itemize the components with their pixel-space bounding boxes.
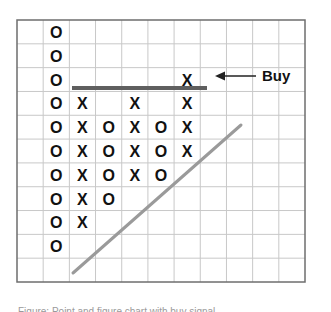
o-mark: O: [50, 191, 62, 208]
o-mark: O: [50, 167, 62, 184]
o-mark: O: [50, 143, 62, 160]
buy-label: Buy: [262, 67, 291, 84]
x-mark: X: [182, 143, 193, 160]
arrow-head-icon: [215, 72, 225, 81]
x-mark: X: [77, 214, 88, 231]
x-mark: X: [77, 119, 88, 136]
o-mark: O: [50, 238, 62, 255]
x-mark: X: [182, 95, 193, 112]
o-mark: O: [155, 143, 167, 160]
o-mark: O: [50, 72, 62, 89]
o-mark: O: [102, 143, 114, 160]
x-mark: X: [77, 167, 88, 184]
o-mark: O: [50, 95, 62, 112]
o-mark: O: [50, 119, 62, 136]
point-and-figure-chart: OOOOOOOOOOXXXXXXOOOOXXXXOOOXXXX Buy: [0, 0, 331, 312]
x-mark: X: [182, 119, 193, 136]
x-mark: X: [129, 143, 140, 160]
o-mark: O: [102, 191, 114, 208]
o-mark: O: [155, 119, 167, 136]
o-mark: O: [50, 48, 62, 65]
o-mark: O: [50, 214, 62, 231]
x-mark: X: [77, 95, 88, 112]
x-mark: X: [129, 119, 140, 136]
o-mark: O: [102, 167, 114, 184]
o-mark: O: [50, 24, 62, 41]
o-mark: O: [102, 119, 114, 136]
x-mark: X: [77, 191, 88, 208]
x-mark: X: [129, 167, 140, 184]
figure-caption: Figure: Point and figure chart with buy …: [18, 305, 318, 312]
x-mark: X: [182, 72, 193, 89]
x-mark: X: [77, 143, 88, 160]
x-mark: X: [129, 95, 140, 112]
o-mark: O: [155, 167, 167, 184]
